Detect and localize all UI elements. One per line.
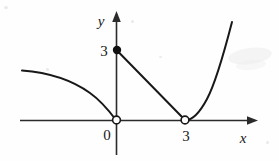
open-point-3-0 (181, 116, 189, 124)
curve-left-branch (22, 71, 116, 121)
filled-point-0-3 (113, 46, 121, 54)
x-axis-arrow-icon (247, 116, 258, 125)
scan-artifact (159, 56, 162, 58)
graph-canvas: y x 3 0 3 (0, 0, 279, 161)
scan-artifact (46, 68, 49, 71)
open-point-origin (113, 116, 121, 124)
math-figure: y x 3 0 3 (0, 0, 279, 161)
curve-right-branch (185, 22, 232, 120)
scan-artifact (266, 141, 269, 144)
scan-artifact (131, 20, 134, 23)
y-axis-label: y (96, 13, 105, 29)
x-axis-label: x (239, 130, 247, 146)
y-tick-label-3: 3 (100, 43, 108, 59)
scan-artifact (4, 6, 8, 9)
y-axis-arrow-icon (112, 11, 121, 22)
x-tick-label-0: 0 (103, 127, 111, 143)
line-middle-segment (117, 51, 185, 120)
x-tick-label-3: 3 (182, 128, 190, 144)
